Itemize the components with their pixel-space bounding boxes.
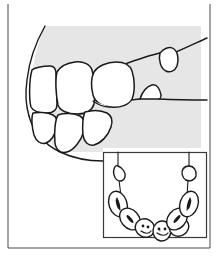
upper-molar-distal <box>30 66 57 113</box>
upper-cusp-right <box>159 48 178 72</box>
upper-premolar <box>92 62 135 107</box>
figure-container <box>0 0 219 257</box>
callout-right <box>182 166 196 181</box>
occlusal-arch-inset <box>104 152 207 242</box>
dental-illustration <box>0 0 219 257</box>
upper-molar-mesial <box>56 62 95 114</box>
